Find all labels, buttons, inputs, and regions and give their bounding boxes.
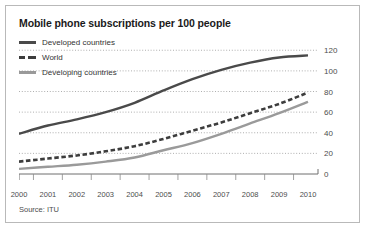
y-axis-tick-label: 120 — [324, 46, 338, 55]
series-line-developed-countries — [19, 55, 308, 133]
x-axis-tick-label: 2001 — [40, 190, 57, 199]
plot-area: 020406080100120 — [19, 28, 348, 188]
x-axis-tick-label: 2006 — [184, 190, 201, 199]
y-axis-tick-label: 80 — [324, 88, 333, 97]
x-axis-tick-label: 2002 — [68, 190, 85, 199]
series-line-developing-countries — [19, 102, 308, 169]
chart-panel: Mobile phone subscriptions per 100 peopl… — [5, 5, 360, 223]
x-axis-tick-label: 2008 — [242, 190, 259, 199]
source-note: Source: ITU — [19, 205, 59, 214]
x-axis-tick-label: 2007 — [213, 190, 230, 199]
x-axis-tick-label: 2010 — [300, 190, 317, 199]
x-axis-tick-label: 2003 — [97, 190, 114, 199]
y-axis-tick-label: 100 — [324, 67, 338, 76]
line-chart-svg: 020406080100120 — [19, 28, 348, 188]
y-axis-tick-label: 0 — [324, 170, 329, 179]
y-axis-tick-label: 40 — [324, 129, 333, 138]
y-axis-tick-label: 20 — [324, 149, 333, 158]
y-axis-tick-label: 60 — [324, 108, 333, 117]
x-axis-tick-label: 2004 — [126, 190, 143, 199]
x-axis-tick-label: 2009 — [271, 190, 288, 199]
x-axis-tick-label: 2000 — [11, 190, 28, 199]
x-axis-tick-label: 2005 — [155, 190, 172, 199]
x-axis-labels: 2000200120022003200420052006200720082009… — [19, 190, 348, 204]
